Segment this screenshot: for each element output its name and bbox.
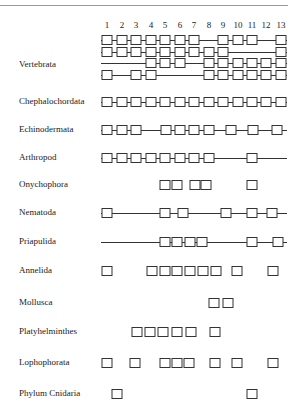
track <box>102 359 278 368</box>
gene-box <box>175 154 185 163</box>
gene-box <box>161 126 171 135</box>
track <box>101 36 287 45</box>
gene-box <box>102 71 112 80</box>
gene-box <box>102 209 112 218</box>
gene-box <box>201 181 211 190</box>
gene-box <box>198 267 208 276</box>
gene-box <box>160 98 170 107</box>
gene-box <box>158 328 168 337</box>
gene-box <box>146 36 156 45</box>
gene-box <box>184 359 194 368</box>
gene-box <box>204 154 214 163</box>
gene-box <box>102 267 112 276</box>
gene-box <box>272 126 282 135</box>
gene-box <box>130 359 140 368</box>
gene-box <box>146 48 156 57</box>
gene-box <box>233 59 243 68</box>
gene-box <box>233 71 243 80</box>
track <box>101 48 287 57</box>
gene-box <box>146 59 156 68</box>
gene-box <box>204 48 214 57</box>
gene-box <box>226 126 236 135</box>
gene-box <box>102 154 112 163</box>
gene-box <box>233 98 243 107</box>
gene-box <box>210 328 220 337</box>
gene-box <box>221 209 231 218</box>
gene-box <box>204 126 214 135</box>
gene-box <box>145 328 155 337</box>
gene-box <box>268 267 278 276</box>
gene-box <box>248 126 258 135</box>
gene-box <box>102 359 112 368</box>
gene-box <box>160 267 170 276</box>
gene-box <box>276 71 286 80</box>
gene-box <box>190 181 200 190</box>
gene-box <box>223 299 233 308</box>
gene-box <box>146 154 156 163</box>
gene-box <box>204 98 214 107</box>
gene-box <box>276 36 286 45</box>
gene-box <box>218 98 228 107</box>
gene-box <box>247 209 257 218</box>
gene-box <box>204 71 214 80</box>
track <box>101 154 287 163</box>
track <box>112 390 257 399</box>
gene-box <box>160 48 170 57</box>
gene-box <box>186 328 196 337</box>
gene-box <box>268 359 278 368</box>
gene-box <box>276 98 286 107</box>
gene-box <box>247 154 257 163</box>
gene-box <box>131 154 141 163</box>
track <box>101 59 287 68</box>
gene-box <box>273 238 283 247</box>
gene-box <box>276 59 286 68</box>
gene-box <box>175 126 185 135</box>
gene-box <box>117 36 127 45</box>
gene-box <box>172 328 182 337</box>
gene-box <box>160 209 170 218</box>
gene-box <box>261 98 271 107</box>
gene-box <box>117 126 127 135</box>
gene-box <box>218 59 228 68</box>
gene-box <box>204 59 214 68</box>
gene-box <box>172 238 182 247</box>
gene-box <box>189 126 199 135</box>
gene-box <box>210 359 220 368</box>
gene-box <box>172 181 182 190</box>
gene-box <box>131 126 141 135</box>
gene-box <box>131 71 141 80</box>
gene-box <box>185 267 195 276</box>
gene-box <box>131 98 141 107</box>
gene-box <box>233 36 243 45</box>
gene-box <box>211 267 221 276</box>
gene-box <box>247 238 257 247</box>
track <box>101 71 287 80</box>
gene-box <box>232 359 242 368</box>
gene-box <box>185 238 195 247</box>
track <box>102 267 278 276</box>
track <box>160 181 257 190</box>
gene-box <box>175 48 185 57</box>
gene-box <box>189 98 199 107</box>
gene-box <box>261 71 271 80</box>
gene-box <box>209 299 219 308</box>
gene-box <box>261 59 271 68</box>
track <box>101 126 287 135</box>
gene-box <box>102 36 112 45</box>
gene-box <box>147 267 157 276</box>
gene-box <box>131 36 141 45</box>
gene-box <box>189 36 199 45</box>
gene-box <box>160 359 170 368</box>
gene-box <box>117 98 127 107</box>
gene-box <box>146 71 156 80</box>
gene-box <box>160 181 170 190</box>
gene-box <box>117 48 127 57</box>
gene-box <box>189 154 199 163</box>
gene-box <box>146 98 156 107</box>
gene-box <box>247 36 257 45</box>
track <box>101 209 287 218</box>
gene-box <box>112 390 122 399</box>
gene-box <box>102 126 112 135</box>
gene-box <box>160 59 170 68</box>
gene-box <box>218 36 228 45</box>
